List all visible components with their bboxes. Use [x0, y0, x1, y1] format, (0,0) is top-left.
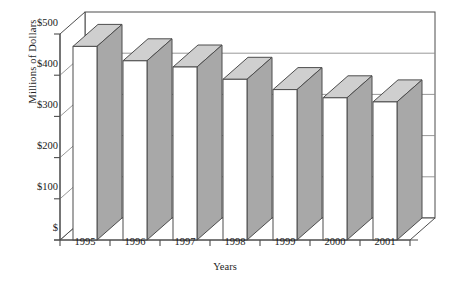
y-axis-line — [54, 34, 60, 240]
x-axis-title: Years — [0, 261, 450, 272]
bar-1995 — [73, 24, 122, 240]
bar-2000 — [323, 76, 372, 240]
bar-2001 — [373, 80, 422, 240]
bar-1999 — [273, 68, 322, 240]
bar-1998 — [223, 57, 272, 240]
bar-1997 — [173, 45, 222, 240]
chart-figure: Millions of Dollars $500 $400 $300 $200 … — [0, 0, 450, 288]
x-tick-label-2001: 2001 — [355, 236, 415, 247]
bar-1996 — [123, 39, 172, 240]
